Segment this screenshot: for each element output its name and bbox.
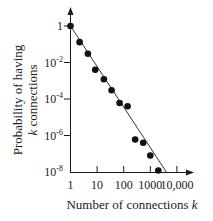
data-point (140, 139, 147, 146)
x-axis-arrow-icon (186, 170, 194, 176)
data-point (108, 87, 115, 94)
data-point (155, 167, 162, 174)
y-ticks: 110-210-410-610-8 (44, 19, 70, 179)
y-tick-label: 10-2 (44, 55, 63, 70)
y-tick-label: 10-8 (44, 164, 63, 179)
x-tick-label: 100 (115, 178, 133, 192)
data-points (67, 23, 161, 174)
data-point (101, 76, 108, 83)
y-tick-label: 10-4 (44, 91, 63, 106)
x-ticks: 110100100010,000 (68, 166, 194, 192)
data-point (147, 152, 154, 159)
y-axis-label-line2: k connections (25, 64, 40, 135)
y-axis-label: Probability of having k connections (10, 44, 40, 155)
data-point (116, 100, 123, 107)
y-tick-label: 1 (57, 19, 63, 33)
fit-line (71, 26, 167, 172)
data-point (132, 136, 139, 143)
data-point (92, 66, 99, 73)
x-axis-label: Number of connections k (66, 197, 197, 212)
chart-canvas: 110-210-410-610-8 110100100010,000 Proba… (0, 0, 213, 221)
y-tick-label: 10-6 (44, 128, 63, 143)
data-point (124, 103, 131, 110)
x-tick-label: 10 (91, 178, 103, 192)
data-point (67, 23, 74, 30)
y-axis-label-line1: Probability of having (10, 44, 25, 155)
x-tick-label: 1 (68, 178, 74, 192)
x-tick-label: 1000 (138, 178, 162, 192)
data-point (85, 50, 92, 57)
y-axis-arrow-icon (68, 7, 74, 15)
x-tick-label: 10,000 (160, 178, 193, 192)
data-point (76, 39, 83, 46)
